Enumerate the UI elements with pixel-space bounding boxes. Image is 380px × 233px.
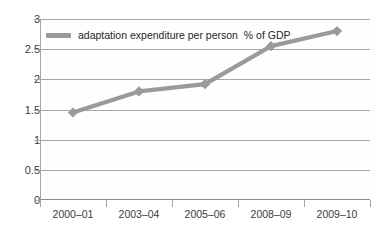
plot-area (40, 19, 370, 200)
gridline (41, 110, 370, 111)
x-axis-tick-mark (238, 200, 239, 207)
gridline (41, 170, 370, 171)
x-axis-tick-label: 2000–01 (53, 209, 94, 220)
x-axis-tick-mark (370, 200, 371, 207)
x-axis-tick-mark (304, 200, 305, 207)
legend: adaptation expenditure per person % of G… (46, 28, 290, 42)
gridline (41, 79, 370, 80)
legend-label: adaptation expenditure per person % of G… (78, 30, 290, 41)
x-axis-tick-mark (106, 200, 107, 207)
x-axis-tick-label: 2005–06 (185, 209, 226, 220)
x-axis-tick-mark (40, 200, 41, 207)
x-axis-tick-mark (172, 200, 173, 207)
gridline (41, 49, 370, 50)
line-chart: 0 0.5 1 1.5 2 2.5 3 2000–01 2003–04 2005… (0, 0, 380, 233)
x-axis-tick-label: 2008–09 (251, 209, 292, 220)
gridline (41, 140, 370, 141)
x-axis-tick-label: 2009–10 (317, 209, 358, 220)
x-axis-tick-label: 2003–04 (119, 209, 160, 220)
legend-marker-icon (46, 33, 71, 38)
